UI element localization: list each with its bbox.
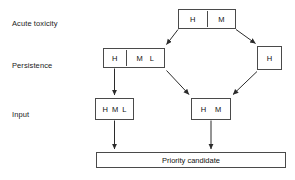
node-priority-candidate[interactable]: Priority candidate bbox=[96, 152, 286, 168]
node-input-hml[interactable]: H M L bbox=[95, 98, 134, 120]
row-label-acute-toxicity: Acute toxicity bbox=[12, 19, 58, 28]
node-persistence-hml[interactable]: H M L bbox=[103, 48, 165, 68]
node-cell-m: M bbox=[112, 105, 118, 114]
node-acute-toxicity-hm[interactable]: H M bbox=[178, 9, 236, 29]
node-cell-h: H bbox=[104, 49, 126, 67]
node-cell-h: H bbox=[179, 10, 207, 28]
node-cell-m: M bbox=[208, 10, 236, 28]
row-label-persistence: Persistence bbox=[12, 61, 52, 70]
node-input-hm[interactable]: H M bbox=[191, 98, 231, 120]
node-cell-m: M bbox=[137, 54, 143, 63]
node-cell-l: L bbox=[122, 105, 126, 114]
flowchart-diagram: Acute toxicity Persistence Input H M H M bbox=[0, 0, 295, 180]
arrow-top-to-right bbox=[236, 30, 256, 44]
node-cell-h: H bbox=[267, 47, 272, 69]
node-cell-group-ml: M L bbox=[127, 49, 164, 67]
node-cell-m: M bbox=[215, 105, 221, 114]
node-cell-h: H bbox=[201, 105, 206, 114]
arrow-left-to-bottom-right bbox=[167, 71, 190, 95]
node-persistence-h[interactable]: H bbox=[257, 46, 282, 70]
arrow-top-to-left bbox=[167, 30, 179, 45]
row-label-input: Input bbox=[12, 110, 29, 119]
priority-candidate-label: Priority candidate bbox=[162, 156, 220, 165]
node-cell-h: H bbox=[103, 105, 108, 114]
node-cell-l: L bbox=[150, 54, 154, 63]
arrow-right-to-bottom-right bbox=[233, 72, 257, 95]
